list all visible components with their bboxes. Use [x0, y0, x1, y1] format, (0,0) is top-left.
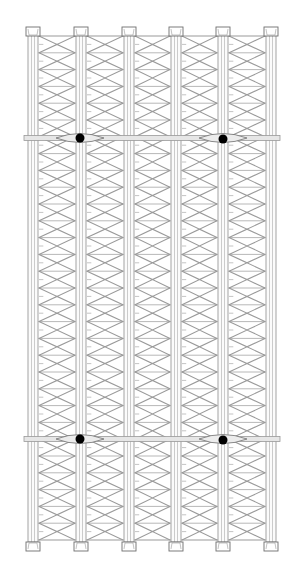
column-cap-top — [74, 27, 88, 36]
column-base-bottom — [74, 542, 88, 551]
x-brace — [87, 355, 123, 372]
x-brace — [182, 389, 217, 406]
x-brace — [182, 305, 217, 322]
x-brace — [182, 86, 217, 103]
x-brace — [182, 523, 217, 540]
x-brace — [135, 271, 170, 288]
column — [171, 34, 181, 542]
x-brace — [39, 473, 75, 490]
x-brace — [229, 288, 265, 305]
x-brace — [182, 473, 217, 490]
x-brace — [229, 406, 265, 423]
x-brace — [182, 238, 217, 255]
x-brace — [182, 154, 217, 171]
x-brace — [87, 338, 123, 355]
x-brace — [87, 187, 123, 204]
x-brace — [39, 271, 75, 288]
x-brace — [229, 523, 265, 540]
x-brace — [87, 271, 123, 288]
x-brace — [229, 170, 265, 187]
x-brace — [135, 506, 170, 523]
x-brace — [39, 238, 75, 255]
x-brace — [182, 322, 217, 339]
x-brace — [135, 372, 170, 389]
x-brace — [182, 170, 217, 187]
x-brace — [87, 389, 123, 406]
x-brace — [229, 36, 265, 53]
x-brace — [135, 389, 170, 406]
x-brace — [39, 53, 75, 70]
x-brace — [87, 70, 123, 87]
anchor-node — [76, 435, 85, 444]
x-brace — [135, 523, 170, 540]
x-brace — [39, 221, 75, 238]
x-brace — [135, 456, 170, 473]
column — [76, 34, 86, 542]
column-cap-top — [122, 27, 136, 36]
x-brace — [135, 36, 170, 53]
structural-elevation-drawing — [0, 0, 299, 579]
x-brace — [229, 389, 265, 406]
x-brace — [39, 36, 75, 53]
x-brace — [182, 36, 217, 53]
column — [124, 34, 134, 542]
x-brace — [39, 338, 75, 355]
x-brace — [39, 70, 75, 87]
x-brace — [87, 170, 123, 187]
x-brace — [87, 103, 123, 120]
x-brace — [39, 406, 75, 423]
x-brace — [135, 204, 170, 221]
x-brace — [87, 238, 123, 255]
x-brace — [135, 338, 170, 355]
x-brace — [39, 506, 75, 523]
x-brace — [87, 120, 123, 137]
x-brace — [39, 456, 75, 473]
x-brace — [87, 490, 123, 507]
x-brace — [182, 271, 217, 288]
x-brace — [229, 70, 265, 87]
anchor-node — [219, 436, 228, 445]
x-brace — [39, 103, 75, 120]
x-brace — [229, 271, 265, 288]
x-brace — [229, 490, 265, 507]
x-brace — [39, 154, 75, 171]
column-base-bottom — [264, 542, 278, 551]
x-brace — [87, 154, 123, 171]
x-brace — [182, 204, 217, 221]
x-brace — [135, 70, 170, 87]
x-brace — [87, 254, 123, 271]
x-brace — [229, 355, 265, 372]
x-brace — [229, 154, 265, 171]
x-brace — [229, 187, 265, 204]
x-brace — [182, 221, 217, 238]
x-brace — [135, 221, 170, 238]
x-brace — [39, 187, 75, 204]
x-brace — [229, 322, 265, 339]
x-brace — [135, 187, 170, 204]
x-brace — [229, 456, 265, 473]
column — [266, 34, 276, 542]
x-brace — [182, 506, 217, 523]
x-brace — [182, 288, 217, 305]
column-base-bottom — [122, 542, 136, 551]
x-brace — [182, 103, 217, 120]
x-brace — [229, 254, 265, 271]
x-brace — [229, 473, 265, 490]
x-brace — [135, 170, 170, 187]
column-cap-top — [216, 27, 230, 36]
x-brace — [87, 506, 123, 523]
column-cap-top — [169, 27, 183, 36]
x-brace — [87, 36, 123, 53]
x-brace — [182, 372, 217, 389]
x-brace — [39, 523, 75, 540]
x-brace — [87, 53, 123, 70]
column-base-bottom — [169, 542, 183, 551]
x-brace — [229, 338, 265, 355]
column-cap-top — [264, 27, 278, 36]
x-brace — [229, 305, 265, 322]
x-brace — [229, 53, 265, 70]
x-brace — [135, 238, 170, 255]
x-brace — [87, 473, 123, 490]
x-brace — [182, 490, 217, 507]
x-brace — [182, 254, 217, 271]
